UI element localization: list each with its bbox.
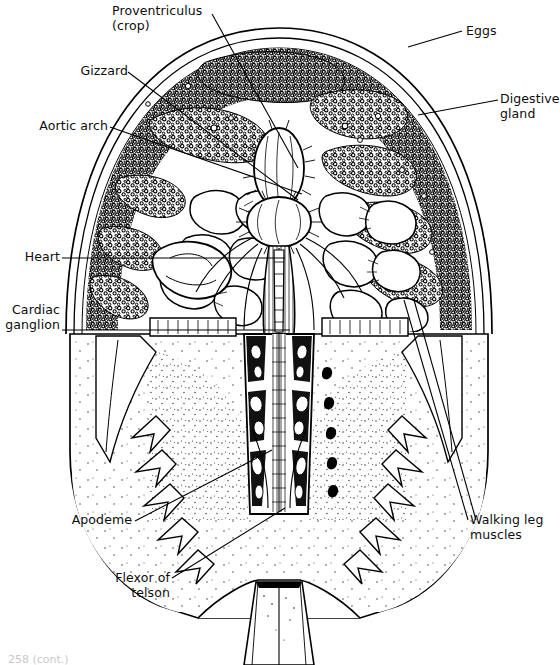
label-digestive-gland: Digestive gland <box>500 92 560 121</box>
label-walking-leg-muscles: Walking leg muscles <box>470 513 543 542</box>
label-flexor-of-telson: Flexor of telson <box>0 571 170 600</box>
label-apodeme: Apodeme <box>0 513 132 528</box>
label-eggs: Eggs <box>466 24 497 39</box>
abdominal-trough <box>244 334 314 514</box>
cardiac-ganglion <box>274 250 284 332</box>
label-proventriculus: Proventriculus (crop) <box>112 4 202 33</box>
label-aortic-arch: Aortic arch <box>0 119 108 134</box>
figure-caption: 258 (cont.) <box>8 653 69 665</box>
label-cardiac-ganglion: Cardiac ganglion <box>0 303 60 332</box>
label-heart: Heart <box>0 250 60 265</box>
label-gizzard: Gizzard <box>0 64 128 79</box>
